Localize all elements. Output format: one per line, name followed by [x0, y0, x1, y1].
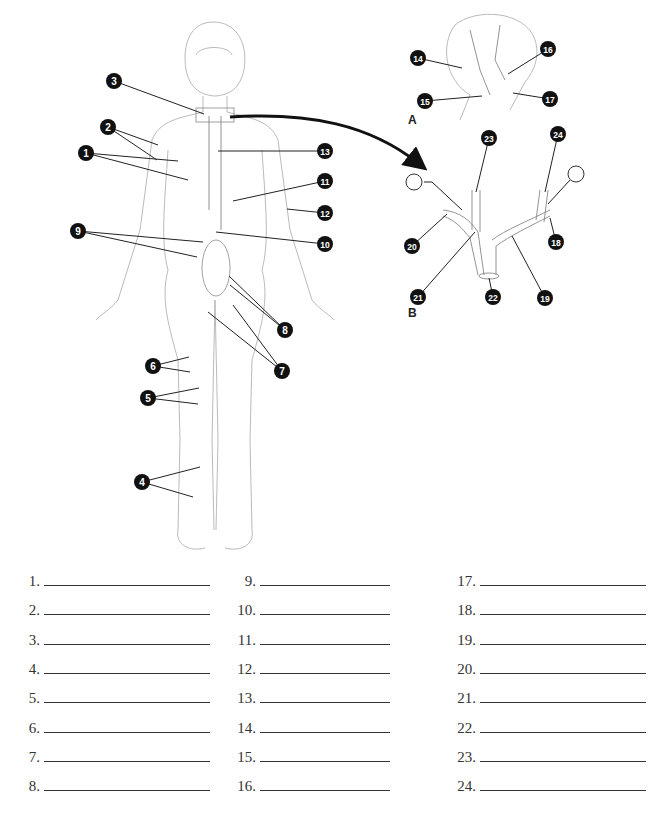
svg-text:7: 7: [279, 366, 285, 377]
svg-text:6: 6: [150, 361, 156, 372]
answer-blank-line[interactable]: [260, 673, 390, 674]
callout-marker-20: 20: [404, 238, 420, 254]
answer-row: 20.: [454, 656, 646, 678]
leader-line: [78, 231, 203, 242]
callout-marker-17: 17: [542, 91, 558, 107]
answer-number: 3.: [28, 632, 40, 649]
answer-number: 12.: [232, 661, 256, 678]
svg-text:9: 9: [75, 226, 81, 237]
answer-blank-line[interactable]: [44, 644, 210, 645]
svg-text:4: 4: [139, 477, 145, 488]
answer-row: 4.: [28, 656, 210, 678]
answer-blank-line[interactable]: [44, 702, 210, 703]
svg-text:8: 8: [282, 325, 288, 336]
answer-row: 3.: [28, 627, 210, 649]
answer-blank-line[interactable]: [260, 702, 390, 703]
answer-row: 9.: [232, 568, 390, 590]
answer-blank-line[interactable]: [480, 732, 646, 733]
answer-number: 10.: [232, 602, 256, 619]
answer-number: 13.: [232, 690, 256, 707]
answer-blank-line[interactable]: [480, 702, 646, 703]
callout-marker-22: 22: [485, 289, 501, 305]
svg-text:17: 17: [545, 95, 555, 105]
answer-blank-line[interactable]: [260, 644, 390, 645]
answer-number: 11.: [232, 632, 256, 649]
svg-text:12: 12: [320, 209, 330, 219]
answer-blank-line[interactable]: [260, 790, 390, 791]
answer-row: 6.: [28, 715, 210, 737]
answer-row: 8.: [28, 773, 210, 795]
answer-blank-line[interactable]: [480, 673, 646, 674]
answer-blank-line[interactable]: [44, 761, 210, 762]
svg-text:21: 21: [413, 293, 423, 303]
answer-number: 14.: [232, 720, 256, 737]
answer-number: 9.: [232, 573, 256, 590]
answer-row: 23.: [454, 744, 646, 766]
svg-text:16: 16: [543, 45, 553, 55]
callout-marker-23: 23: [481, 130, 497, 146]
callout-marker-6: 6: [145, 358, 161, 374]
callout-marker-12: 12: [317, 205, 333, 221]
answer-row: 7.: [28, 744, 210, 766]
answer-row: 2.: [28, 597, 210, 619]
callout-marker-7: 7: [274, 363, 290, 379]
leader-line: [425, 96, 482, 101]
answer-blank-line[interactable]: [480, 614, 646, 615]
answer-row: 12.: [232, 656, 390, 678]
callout-marker-2: 2: [100, 119, 116, 135]
callout-marker-14: 14: [410, 50, 426, 66]
answer-blank-line[interactable]: [44, 614, 210, 615]
svg-text:2: 2: [105, 122, 111, 133]
answer-row: 15.: [232, 744, 390, 766]
svg-text:22: 22: [488, 293, 498, 303]
callout-marker-16: 16: [540, 41, 556, 57]
answer-blank-line[interactable]: [260, 585, 390, 586]
callout-marker-21: 21: [410, 289, 426, 305]
callout-marker-1: 1: [78, 145, 94, 161]
answer-row: 1.: [28, 568, 210, 590]
leader-line: [142, 467, 200, 482]
answer-row: 24.: [454, 773, 646, 795]
answer-number: 2.: [28, 602, 40, 619]
answer-number: 5.: [28, 690, 40, 707]
answer-row: 13.: [232, 685, 390, 707]
callout-marker-24: 24: [550, 126, 566, 142]
answer-blank-line[interactable]: [260, 614, 390, 615]
answer-blank-line[interactable]: [260, 732, 390, 733]
callout-marker-10: 10: [317, 236, 333, 252]
answer-blank-line[interactable]: [44, 790, 210, 791]
answer-blank-line[interactable]: [480, 761, 646, 762]
answer-blank-line[interactable]: [480, 585, 646, 586]
answer-row: 16.: [232, 773, 390, 795]
answer-blank-line[interactable]: [44, 585, 210, 586]
leader-line: [233, 181, 325, 201]
answer-number: 15.: [232, 749, 256, 766]
callout-marker-4: 4: [134, 474, 150, 490]
svg-text:3: 3: [111, 76, 117, 87]
svg-text:10: 10: [320, 240, 330, 250]
answer-blank-line[interactable]: [260, 761, 390, 762]
answer-blank-line[interactable]: [480, 644, 646, 645]
answer-number: 6.: [28, 720, 40, 737]
answer-blank-line[interactable]: [44, 673, 210, 674]
answer-row: 11.: [232, 627, 390, 649]
leader-line: [229, 276, 285, 330]
answer-number: 20.: [454, 661, 476, 678]
answer-row: 19.: [454, 627, 646, 649]
leader-line: [108, 127, 157, 160]
svg-text:13: 13: [320, 147, 330, 157]
svg-text:11: 11: [321, 177, 330, 187]
answer-row: 22.: [454, 715, 646, 737]
answer-blank-line[interactable]: [44, 732, 210, 733]
answer-number: 16.: [232, 778, 256, 795]
leader-line: [114, 81, 204, 114]
answer-blank-line[interactable]: [480, 790, 646, 791]
answer-number: 19.: [454, 632, 476, 649]
answer-number: 1.: [28, 573, 40, 590]
lymphatic-system-figure: 123456789101112131415161718192021222324: [0, 0, 670, 560]
answer-number: 8.: [28, 778, 40, 795]
svg-text:20: 20: [407, 242, 417, 252]
answer-number: 4.: [28, 661, 40, 678]
body-outline-sketch: [96, 22, 334, 549]
answer-key-blanks: 1.2.3.4.5.6.7.8.9.10.11.12.13.14.15.16.1…: [0, 560, 670, 827]
